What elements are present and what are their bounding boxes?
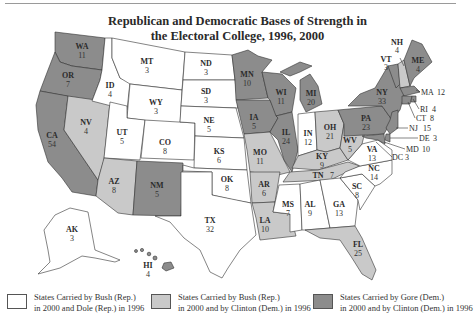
svg-text:GA: GA: [333, 200, 345, 209]
legend-swatch-dark-gray: [313, 294, 333, 309]
legend-label-line2: in 2000 and by Clinton (Dem.) in 1996: [340, 303, 473, 314]
svg-text:MA: MA: [421, 88, 434, 97]
legend-label-line1: States Carried by Gore (Dem.): [340, 292, 473, 303]
svg-text:SC: SC: [352, 182, 362, 191]
legend-label-line1: States Carried by Bush (Rep.): [178, 292, 311, 303]
svg-text:VA: VA: [367, 145, 378, 154]
svg-text:OH: OH: [324, 123, 337, 132]
svg-text:9: 9: [308, 209, 312, 218]
svg-text:12: 12: [437, 88, 445, 97]
svg-text:RI: RI: [420, 105, 428, 114]
legend-label-line1: States Carried by Bush (Rep.): [34, 292, 144, 303]
svg-text:13: 13: [335, 209, 343, 218]
svg-text:11: 11: [277, 97, 285, 106]
svg-text:TX: TX: [204, 216, 215, 225]
svg-text:TN: TN: [312, 171, 323, 180]
state-mi-upper[interactable]: [280, 62, 312, 76]
svg-text:CO: CO: [159, 138, 171, 147]
svg-text:WV: WV: [343, 136, 357, 145]
svg-text:25: 25: [354, 249, 362, 258]
svg-text:MO: MO: [253, 148, 267, 157]
svg-text:5: 5: [155, 190, 159, 199]
svg-text:NE: NE: [203, 116, 214, 125]
state-az[interactable]: [96, 158, 137, 215]
svg-text:KY: KY: [316, 152, 328, 161]
state-ri[interactable]: [411, 96, 416, 102]
state-ak[interactable]: [38, 208, 120, 274]
svg-text:NM: NM: [150, 181, 164, 190]
svg-text:UT: UT: [116, 128, 128, 137]
svg-text:3: 3: [145, 66, 149, 75]
svg-text:5: 5: [348, 145, 352, 154]
svg-text:3: 3: [70, 234, 74, 243]
svg-text:CT: CT: [416, 114, 426, 123]
legend-swatch-white: [7, 294, 27, 309]
svg-text:10: 10: [422, 145, 430, 154]
svg-text:4: 4: [146, 270, 150, 279]
svg-text:CA: CA: [46, 131, 58, 140]
svg-text:IN: IN: [304, 129, 313, 138]
svg-text:HI: HI: [143, 261, 152, 270]
svg-text:3: 3: [154, 107, 158, 116]
svg-text:15: 15: [423, 124, 431, 133]
svg-text:24: 24: [282, 137, 290, 146]
svg-text:PA: PA: [361, 114, 371, 123]
svg-text:4: 4: [108, 90, 112, 99]
svg-text:32: 32: [206, 225, 214, 234]
svg-text:4: 4: [432, 105, 436, 114]
svg-text:3: 3: [405, 153, 409, 162]
svg-text:8: 8: [355, 191, 359, 200]
svg-text:10: 10: [261, 225, 269, 234]
svg-text:SD: SD: [201, 87, 211, 96]
svg-text:23: 23: [362, 123, 370, 132]
legend-label-line2: in 2000 and Dole (Rep.) in 1996: [34, 303, 144, 314]
svg-text:9: 9: [320, 161, 324, 170]
svg-text:ID: ID: [106, 81, 115, 90]
state-ct[interactable]: [402, 96, 412, 104]
state-de[interactable]: [385, 134, 390, 142]
svg-text:NC: NC: [368, 164, 380, 173]
svg-text:13: 13: [368, 154, 376, 163]
svg-text:AK: AK: [66, 225, 79, 234]
svg-text:6: 6: [217, 156, 221, 165]
svg-text:MN: MN: [240, 70, 254, 79]
svg-text:AL: AL: [304, 200, 315, 209]
svg-text:IL: IL: [282, 128, 290, 137]
svg-text:NY: NY: [376, 88, 388, 97]
svg-text:OR: OR: [62, 71, 74, 80]
svg-text:8: 8: [112, 186, 116, 195]
svg-text:MI: MI: [306, 89, 317, 98]
svg-text:20: 20: [307, 98, 315, 107]
svg-text:8: 8: [225, 184, 229, 193]
svg-text:FL: FL: [353, 240, 363, 249]
svg-text:4: 4: [84, 127, 88, 136]
svg-text:WA: WA: [76, 42, 89, 51]
svg-text:5: 5: [120, 137, 124, 146]
svg-text:11: 11: [78, 51, 86, 60]
svg-text:4: 4: [416, 65, 420, 74]
svg-text:7: 7: [286, 209, 290, 218]
svg-text:NJ: NJ: [409, 124, 418, 133]
svg-text:OK: OK: [221, 175, 234, 184]
svg-text:5: 5: [207, 125, 211, 134]
svg-text:NV: NV: [80, 118, 92, 127]
state-fl[interactable]: [305, 226, 376, 280]
svg-text:ND: ND: [200, 59, 212, 68]
svg-text:ME: ME: [412, 56, 425, 65]
state-ma[interactable]: [400, 86, 420, 96]
svg-text:MT: MT: [141, 57, 155, 66]
svg-text:WI: WI: [275, 88, 286, 97]
svg-text:WY: WY: [149, 98, 163, 107]
svg-text:14: 14: [370, 173, 378, 182]
svg-text:3: 3: [384, 63, 388, 72]
svg-text:21: 21: [326, 132, 334, 141]
svg-text:7: 7: [330, 171, 334, 180]
svg-text:11: 11: [256, 157, 264, 166]
legend-label-line2: in 2000 and by Clinton (Dem.) in 1996: [178, 303, 311, 314]
svg-text:LA: LA: [259, 216, 270, 225]
svg-text:10: 10: [243, 79, 251, 88]
state-hi[interactable]: [135, 248, 175, 271]
legend-swatch-light-gray: [151, 294, 171, 309]
svg-text:3: 3: [204, 96, 208, 105]
us-map: WA11 OR7 CA54 NV4 ID4 MT3 WY3 UT5 AZ8 CO…: [0, 0, 475, 290]
